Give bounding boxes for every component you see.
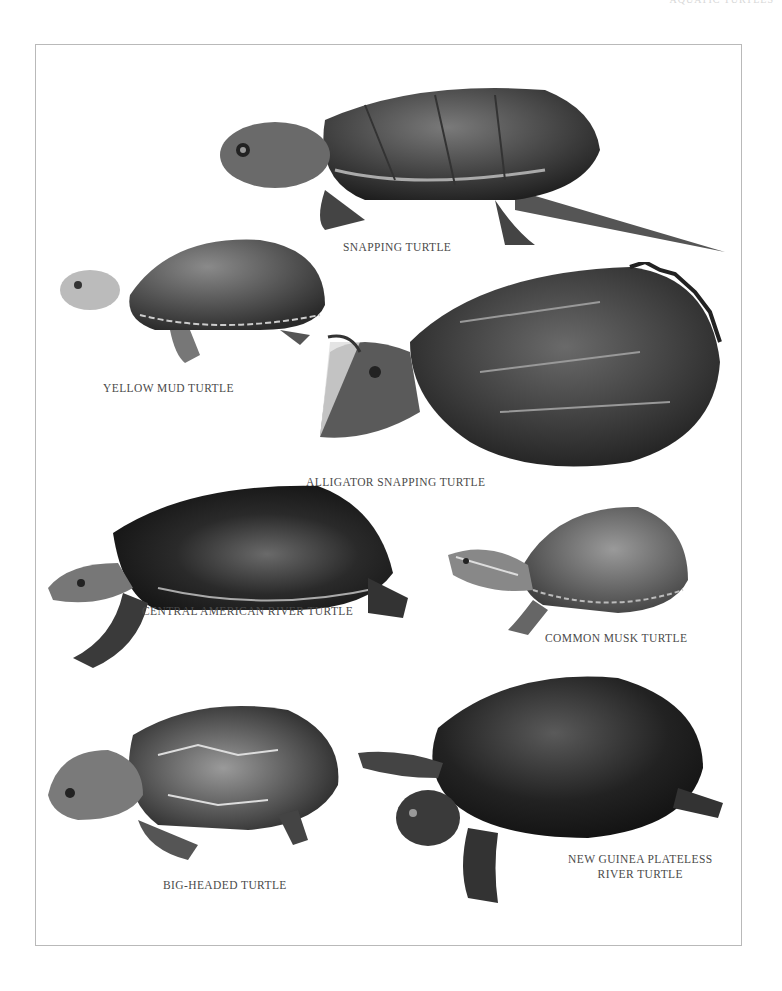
caption-snapping-turtle: SNAPPING TURTLE xyxy=(343,240,451,255)
yellow-mud-turtle-illustration xyxy=(60,235,330,370)
specimen-alligator-snapping-turtle: ALLIGATOR SNAPPING TURTLE xyxy=(300,262,730,494)
specimen-common-musk-turtle: COMMON MUSK TURTLE xyxy=(448,505,693,650)
caption-new-guinea-plateless-river-turtle: NEW GUINEA PLATELESS RIVER TURTLE xyxy=(568,852,713,882)
caption-central-american-river-turtle: CENTRAL AMERICAN RIVER TURTLE xyxy=(142,604,353,619)
caption-common-musk-turtle: COMMON MUSK TURTLE xyxy=(545,631,687,646)
caption-big-headed-turtle: BIG-HEADED TURTLE xyxy=(163,878,287,893)
central-american-river-turtle-illustration xyxy=(48,478,418,673)
caption-yellow-mud-turtle: YELLOW MUD TURTLE xyxy=(103,381,234,396)
big-headed-turtle-illustration xyxy=(48,695,343,865)
specimen-big-headed-turtle: BIG-HEADED TURTLE xyxy=(48,695,343,895)
caption-line-1: NEW GUINEA PLATELESS xyxy=(568,852,713,867)
snapping-turtle-illustration xyxy=(215,80,730,255)
caption-line-2: RIVER TURTLE xyxy=(568,867,713,882)
specimen-new-guinea-plateless-river-turtle: NEW GUINEA PLATELESS RIVER TURTLE xyxy=(358,668,728,908)
running-head: AQUATIC TURTLES xyxy=(670,0,775,5)
alligator-snapping-turtle-illustration xyxy=(300,262,730,477)
specimen-snapping-turtle: SNAPPING TURTLE xyxy=(215,80,730,255)
common-musk-turtle-illustration xyxy=(448,505,693,640)
specimen-central-american-river-turtle: CENTRAL AMERICAN RIVER TURTLE xyxy=(48,478,418,673)
specimen-yellow-mud-turtle: YELLOW MUD TURTLE xyxy=(60,235,330,400)
